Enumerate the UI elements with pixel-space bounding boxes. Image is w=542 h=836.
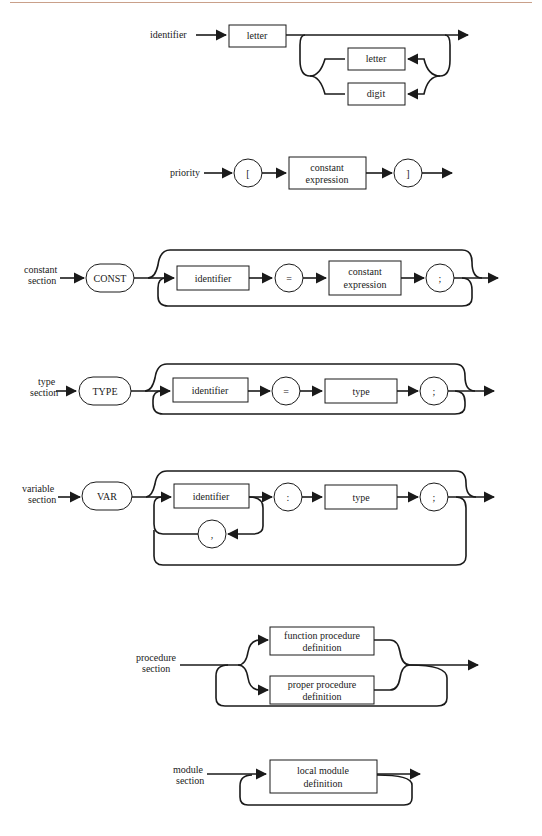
const-expr-line1: constant — [348, 266, 382, 277]
variable-section-diagram: variable section VAR identifier : type ;… — [22, 471, 494, 565]
module-section-label-2: section — [176, 775, 204, 786]
comma-text: , — [211, 529, 214, 540]
const-expr-line2: expression — [344, 279, 387, 290]
type-section-diagram: type section TYPE identifier = type ; — [30, 364, 494, 414]
loop-letter-text: letter — [366, 53, 387, 64]
procedure-section-label-2: section — [142, 663, 170, 674]
expr-line1: constant — [310, 162, 344, 173]
variable-section-label-1: variable — [22, 483, 55, 494]
colon-text: : — [287, 492, 290, 503]
expr-line2: expression — [306, 174, 349, 185]
type-section-label-2: section — [30, 387, 58, 398]
semicolon-text: ; — [433, 492, 436, 503]
equals-text: = — [283, 386, 289, 397]
type-text: type — [352, 492, 370, 503]
module-section-diagram: module section local module definition — [173, 760, 420, 805]
type-section-label-1: type — [38, 376, 56, 387]
identifier-text: identifier — [195, 273, 232, 284]
type-text: type — [352, 386, 370, 397]
identifier-diagram: identifier letter letter digit — [150, 25, 468, 105]
type-keyword-text: TYPE — [93, 386, 118, 397]
priority-diagram: priority [ constant expression ] — [170, 157, 452, 189]
procedure-section-diagram: procedure section function procedure def… — [136, 627, 478, 706]
local-module-line1: local module — [297, 765, 349, 776]
constant-section-label-2: section — [28, 275, 56, 286]
semicolon-text: ; — [433, 386, 436, 397]
module-section-label-1: module — [173, 764, 204, 775]
procedure-section-label-1: procedure — [136, 652, 177, 663]
letter-text: letter — [247, 30, 268, 41]
syntax-diagrams: identifier letter letter digit priority … — [0, 0, 542, 836]
open-bracket-text: [ — [246, 168, 249, 179]
proper-procedure-line2: definition — [303, 691, 342, 702]
identifier-text: identifier — [192, 385, 229, 396]
proper-procedure-line1: proper procedure — [288, 679, 357, 690]
function-procedure-line2: definition — [303, 642, 342, 653]
local-module-line2: definition — [304, 778, 343, 789]
semicolon-text: ; — [439, 273, 442, 284]
digit-text: digit — [367, 88, 386, 99]
var-keyword-text: VAR — [97, 491, 117, 502]
function-procedure-line1: function procedure — [284, 630, 360, 641]
equals-text: = — [286, 273, 292, 284]
identifier-text: identifier — [193, 491, 230, 502]
identifier-label: identifier — [150, 29, 187, 40]
constant-section-label-1: constant — [24, 264, 58, 275]
const-keyword-text: CONST — [94, 273, 127, 284]
priority-label: priority — [170, 167, 200, 178]
constant-section-diagram: constant section CONST identifier = cons… — [24, 250, 498, 306]
close-bracket-text: ] — [406, 168, 409, 179]
variable-section-label-2: section — [28, 494, 56, 505]
